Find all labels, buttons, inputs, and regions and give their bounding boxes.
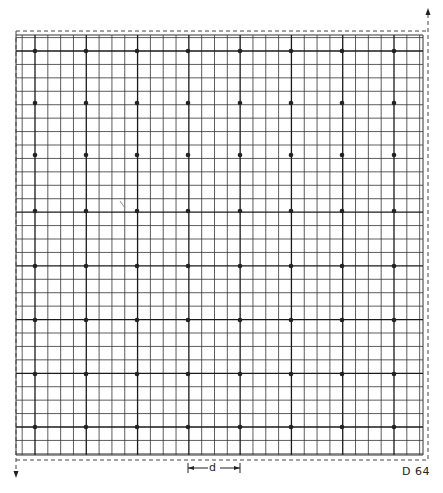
stray-mark — [120, 201, 125, 208]
boundary-arrows — [14, 8, 431, 478]
figure-label: D 64 — [402, 465, 430, 478]
dashed-boundary — [16, 14, 428, 472]
dimension-label: d — [209, 461, 216, 474]
grid-thin-lines — [16, 35, 423, 455]
grid-heavy-lines — [16, 35, 423, 455]
grid-diagram — [0, 0, 443, 493]
